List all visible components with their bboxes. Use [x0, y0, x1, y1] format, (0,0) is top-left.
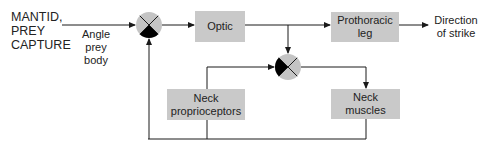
- input-label: Angle prey body: [82, 28, 110, 67]
- neck-muscles-label-line-1: Neck: [353, 91, 378, 104]
- input-label-line-3: body: [82, 54, 110, 67]
- prothoracic-leg-box: Prothoracic leg: [331, 12, 399, 42]
- output-label-line-2: of strike: [432, 27, 480, 40]
- prothoracic-leg-label-line-2: leg: [358, 27, 373, 40]
- mantid-prey-capture-diagram: MANTID, PREY CAPTURE Angle prey body Dir…: [0, 0, 481, 148]
- neck-proprioceptors-box: Neck proprioceptors: [167, 89, 245, 120]
- title-line-2: PREY: [11, 24, 71, 38]
- neck-proprioceptors-label-line-2: proprioceptors: [171, 105, 241, 118]
- prothoracic-leg-label-line-1: Prothoracic: [337, 14, 393, 27]
- diagram-title: MANTID, PREY CAPTURE: [11, 10, 71, 52]
- input-label-line-2: prey: [82, 41, 110, 54]
- optic-label: Optic: [207, 20, 233, 33]
- summing-junction-2: [275, 54, 301, 80]
- optic-box: Optic: [195, 11, 245, 42]
- output-label: Direction of strike: [432, 14, 480, 40]
- neck-muscles-box: Neck muscles: [331, 89, 400, 119]
- output-label-line-1: Direction: [432, 14, 480, 27]
- summing-junction-1: [136, 12, 162, 38]
- title-line-1: MANTID,: [11, 10, 71, 24]
- input-label-line-1: Angle: [82, 28, 110, 41]
- neck-muscles-label-line-2: muscles: [345, 104, 385, 117]
- title-line-3: CAPTURE: [11, 38, 71, 52]
- neck-proprioceptors-label-line-1: Neck: [193, 92, 218, 105]
